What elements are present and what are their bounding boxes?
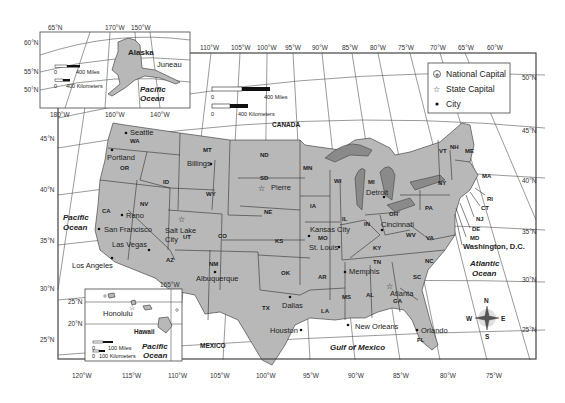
hawaii-scale-km: 100 Kilometers: [99, 353, 136, 359]
lat-label: 35°N: [522, 228, 537, 235]
city-dot-icon: [347, 324, 350, 327]
state-label: LA: [321, 308, 330, 314]
lon-label: 110°W: [200, 44, 220, 51]
state-label: NV: [140, 201, 148, 207]
lat-label: 30°N: [40, 285, 55, 292]
state-label: ME: [465, 148, 474, 154]
state-label: AR: [318, 274, 327, 280]
lon-label: 85°W: [342, 44, 359, 51]
lon-label: 90°W: [348, 372, 365, 379]
hawaii-tick: 20°N: [68, 320, 83, 327]
lon-label: 65°W: [458, 44, 475, 51]
compass-w: W: [466, 315, 473, 322]
left-latitude-labels: 45°N 40°N 35°N 30°N 25°N: [40, 135, 55, 343]
lat-label: 25°N: [40, 336, 55, 343]
alaska-inset: Alaska Juneau PacificOcean 0 400 Miles 0…: [24, 24, 190, 118]
alaska-tick: 180°W: [50, 111, 70, 118]
state-label: RI: [487, 196, 493, 202]
state-label: WV: [406, 232, 416, 238]
city-label: New Orleans: [355, 322, 399, 331]
state-label: OH: [389, 211, 398, 217]
lon-label: 100°W: [257, 44, 277, 51]
lon-label: 90°W: [312, 44, 329, 51]
scale-miles-label: 400 Miles: [264, 94, 288, 100]
scale-miles-zero: 0: [211, 94, 214, 100]
alaska-tick: 170°W: [105, 24, 125, 31]
top-longitude-labels: 110°W 105°W 100°W 95°W 90°W 85°W 80°W 75…: [200, 44, 504, 51]
juneau-label: Juneau: [157, 60, 182, 69]
city-dot-icon: [214, 271, 217, 274]
hawaii-tick: 165°W: [160, 281, 180, 288]
alaska-scale-km: 400 Kilometers: [66, 83, 103, 89]
canada-label: CANADA: [272, 121, 300, 128]
city-dot-icon: [416, 329, 419, 332]
lat-label: 40°N: [522, 177, 537, 184]
compass-rose: N S E W: [466, 297, 506, 340]
city-label: Las Vegas: [112, 240, 147, 249]
state-label: AL: [366, 292, 374, 298]
state-label: PA: [425, 205, 434, 211]
city-label: Cincinnati: [381, 220, 414, 229]
lat-label: 45°N: [40, 135, 55, 142]
state-capital-icon: ☆: [258, 184, 265, 193]
city-label: Billings: [187, 159, 211, 168]
state-label: MA: [482, 173, 492, 179]
state-label: KS: [275, 238, 283, 244]
hawaii-scale-km-zero: 0: [92, 353, 95, 359]
us-map: 110°W 105°W 100°W 95°W 90°W 85°W 80°W 75…: [0, 0, 565, 403]
city-label: Kansas City: [310, 225, 350, 234]
lat-label: 45°N: [522, 127, 537, 134]
state-label: SD: [260, 175, 269, 181]
state-label: TX: [262, 305, 270, 311]
state-label: WY: [206, 191, 216, 197]
lat-label: 30°N: [522, 276, 537, 283]
hawaii-tick: 25°N: [68, 298, 83, 305]
alaska-tick: 55°N: [24, 68, 39, 75]
lat-label: 40°N: [40, 186, 55, 193]
lon-label: 105°W: [210, 372, 230, 379]
city-dot-icon: [111, 257, 114, 260]
lon-label: 80°W: [370, 44, 387, 51]
pacific-ocean-label: PacificOcean: [63, 213, 89, 232]
alaska-scale-miles: 400 Miles: [76, 69, 100, 75]
city-dot-icon: [344, 271, 347, 274]
state-label: OR: [120, 165, 130, 171]
lat-label: 35°N: [40, 237, 55, 244]
scale-km-label: 400 Kilometers: [238, 111, 275, 117]
city-label: Houston: [270, 326, 298, 335]
state-label: WA: [130, 138, 140, 144]
hawaii-inset: ☆ Honolulu Hawaii PacificOcean 0 100 Mil…: [68, 281, 182, 361]
city-dot-icon: [148, 249, 151, 252]
right-latitude-labels: 50°N 45°N 40°N 35°N 30°N 25°N: [522, 74, 537, 333]
compass-n: N: [484, 297, 489, 304]
state-label: MO: [318, 235, 328, 241]
legend-label: National Capital: [446, 69, 506, 79]
state-label: VT: [439, 148, 447, 154]
lon-label: 100°W: [256, 372, 276, 379]
city-label: Dallas: [282, 301, 303, 310]
state-label: FL: [417, 337, 425, 343]
alaska-tick: 160°W: [105, 111, 125, 118]
state-label: TN: [373, 259, 381, 265]
city-dot-icon: [121, 214, 124, 217]
state-label: MS: [342, 294, 351, 300]
city-label: Seattle: [130, 128, 153, 137]
city-label: Albuquerque: [196, 274, 239, 283]
lon-label: 120°W: [72, 372, 92, 379]
state-label: ND: [260, 152, 269, 158]
alaska-tick: 140°W: [150, 111, 170, 118]
lon-label: 110°W: [168, 372, 188, 379]
state-label: ID: [163, 179, 170, 185]
state-label: IA: [310, 203, 317, 209]
alaska-tick: 50°N: [24, 86, 39, 93]
city-label: St. Louis: [309, 243, 338, 252]
city-dot-icon: [381, 229, 384, 232]
state-label: GA: [393, 298, 403, 304]
state-label: MI: [368, 179, 375, 185]
city-label: San Francisco: [104, 225, 152, 234]
state-label: DE: [472, 226, 480, 232]
hawaii-label: Hawaii: [134, 328, 155, 335]
lon-label: 95°W: [303, 372, 320, 379]
city-dot-icon: [125, 132, 128, 135]
state-label: NJ: [476, 216, 484, 222]
